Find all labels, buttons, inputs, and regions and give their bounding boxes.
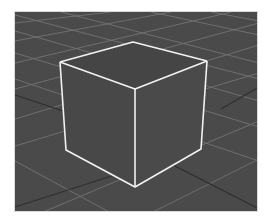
screenshot-root — [0, 0, 269, 223]
viewport-canvas[interactable] — [15, 12, 258, 212]
3d-viewport[interactable] — [14, 11, 258, 212]
